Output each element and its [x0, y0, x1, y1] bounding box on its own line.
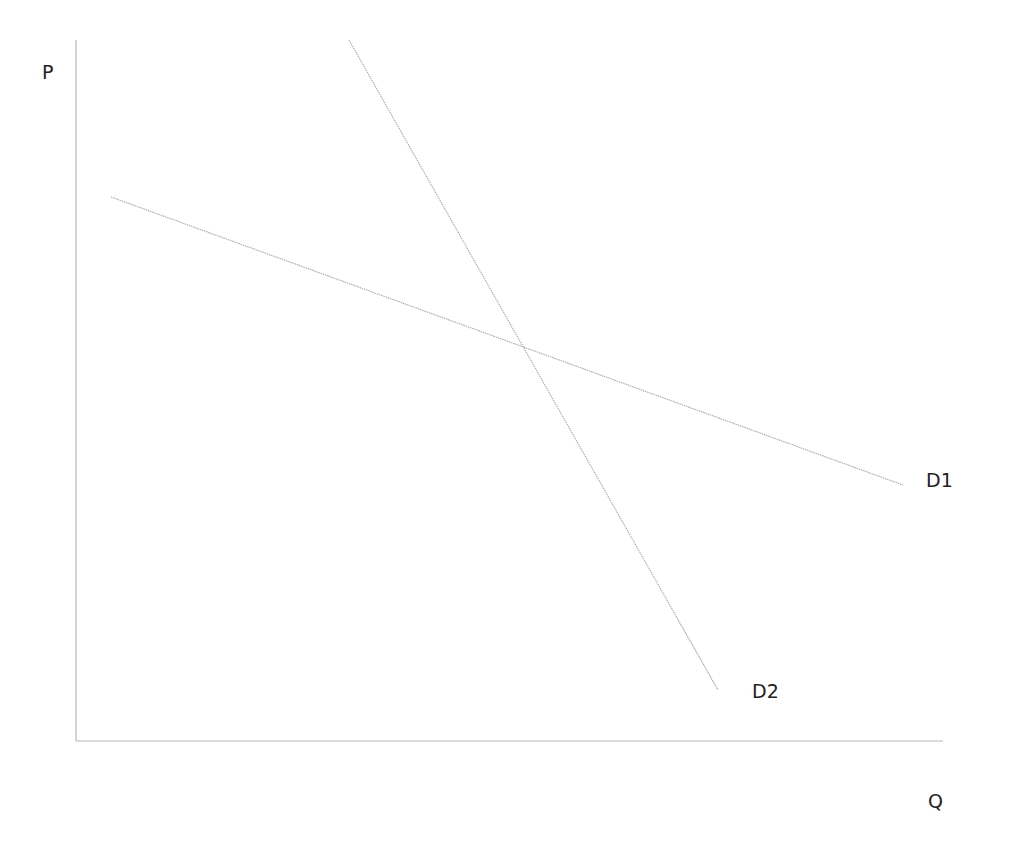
- x-axis-label: Q: [928, 792, 943, 811]
- demand-curve-d2: [349, 40, 718, 690]
- y-axis-label: P: [42, 63, 53, 82]
- demand-curve-d1: [111, 197, 903, 485]
- d1-label: D1: [926, 471, 953, 490]
- demand-diagram: [0, 0, 1010, 845]
- d2-label: D2: [752, 682, 779, 701]
